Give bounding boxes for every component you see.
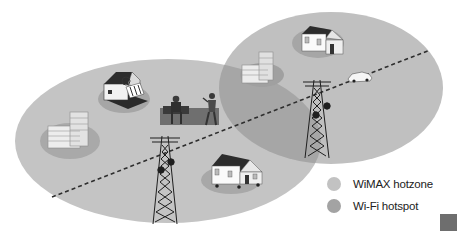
wifi-hotspot-dot-icon [327,199,341,213]
wimax-hotzone-dot-icon [327,177,341,191]
legend-item-wifi: Wi-Fi hotspot [327,195,433,217]
corner-square [440,214,457,231]
legend-item-wimax: WiMAX hotzone [327,173,433,195]
legend-label: WiMAX hotzone [353,178,433,190]
legend-label: Wi-Fi hotspot [353,200,418,212]
legend: WiMAX hotzone Wi-Fi hotspot [327,173,433,217]
